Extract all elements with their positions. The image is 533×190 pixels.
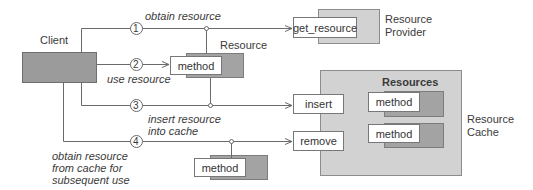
step-1-text: obtain resource [145, 10, 221, 23]
step-4-text-line3: subsequent use [52, 174, 130, 187]
step-3-number: 3 [133, 99, 139, 112]
step-2-text: use resource [107, 73, 171, 86]
step-1-number: 1 [133, 22, 139, 35]
step-3-text-line2: into cache [148, 125, 198, 138]
step-2-number: 2 [133, 58, 139, 71]
step-4-number: 4 [133, 135, 139, 148]
